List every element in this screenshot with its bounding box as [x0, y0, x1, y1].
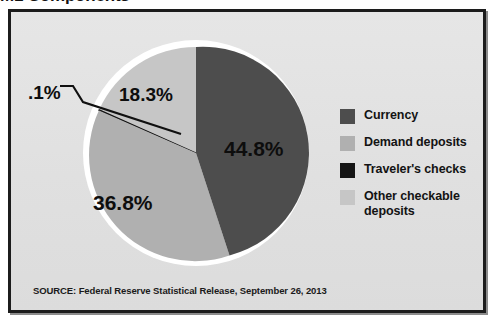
figure-panel: 44.8% 36.8% 18.3% .1% Currency Demand de… — [11, 12, 483, 310]
legend-label-other-checkable-deposits-line1: Other checkable — [364, 189, 460, 204]
legend-swatch-currency-icon — [340, 109, 355, 124]
legend-label-other-checkable-deposits: Other checkable deposits — [364, 189, 460, 219]
legend-item-other-checkable-deposits[interactable]: Other checkable deposits — [340, 189, 483, 219]
pie-label-currency: 44.8% — [224, 138, 284, 159]
legend-label-currency: Currency — [364, 108, 418, 123]
legend-label-demand-deposits: Demand deposits — [364, 135, 467, 150]
figure-frame: 44.8% 36.8% 18.3% .1% Currency Demand de… — [8, 9, 486, 313]
legend-swatch-other-checkable-deposits-icon — [340, 190, 355, 205]
pie-label-demand-deposits: 36.8% — [93, 192, 153, 213]
legend-label-other-checkable-deposits-line2: deposits — [364, 204, 460, 219]
legend-label-travelers-checks: Traveler's checks — [364, 162, 466, 177]
pie-label-travelers-checks: .1% — [28, 83, 61, 102]
legend-swatch-demand-deposits-icon — [340, 136, 355, 151]
legend-item-travelers-checks[interactable]: Traveler's checks — [340, 162, 483, 178]
page-title: M1 Components — [0, 0, 130, 5]
legend-item-demand-deposits[interactable]: Demand deposits — [340, 135, 483, 151]
pie-label-other-checkable-deposits: 18.3% — [119, 85, 173, 104]
figure-title-strip: M1 Components — [0, 0, 496, 5]
legend-item-currency[interactable]: Currency — [340, 108, 483, 124]
chart-legend: Currency Demand deposits Traveler's chec… — [340, 108, 483, 230]
legend-swatch-travelers-checks-icon — [340, 163, 355, 178]
source-note: SOURCE: Federal Reserve Statistical Rele… — [33, 285, 327, 296]
